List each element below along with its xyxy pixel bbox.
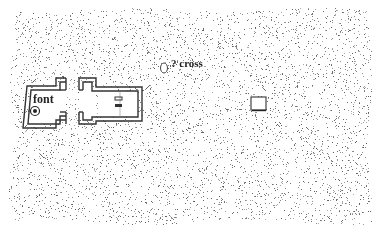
- site-plan-map: font ? cross: [0, 0, 380, 235]
- font-symbol-icon: [31, 107, 40, 116]
- possible-cross-marker-icon: [161, 63, 168, 73]
- slab-marker-lower: [115, 104, 122, 107]
- cross-label: ? cross: [171, 57, 203, 69]
- rectangular-feature: [251, 97, 266, 111]
- font-label: font: [33, 92, 54, 107]
- building-plan: [0, 0, 380, 235]
